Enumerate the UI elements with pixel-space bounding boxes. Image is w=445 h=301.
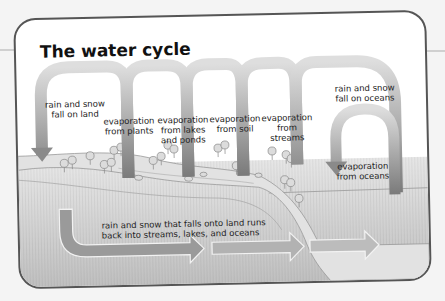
label-evaporation-streams: evaporation from streams [261, 112, 313, 143]
water-cycle-diagram [15, 12, 430, 288]
label-line: fall on land [45, 108, 105, 119]
label-evaporation-soil: evaporation from soil [209, 113, 260, 134]
label-line: from soil [209, 123, 260, 134]
label-rain-on-oceans: rain and snow fall on oceans [335, 82, 395, 103]
label-line: fall on oceans [335, 92, 395, 103]
background-rule-right [425, 50, 445, 52]
label-runoff: rain and snow that falls onto land runs … [101, 217, 266, 240]
label-rain-on-land: rain and snow fall on land [45, 98, 105, 119]
label-line: from oceans [336, 171, 389, 182]
label-line: streams [262, 132, 313, 143]
water-cycle-card: The water cycle [13, 10, 432, 290]
label-line: and ponds [158, 134, 209, 145]
label-evaporation-oceans: evaporation from oceans [336, 161, 389, 182]
label-evaporation-plants: evaporation from plants [103, 115, 154, 136]
label-line: from plants [103, 125, 154, 136]
label-evaporation-lakes: evaporation from lakes and ponds [157, 114, 209, 145]
label-line: evaporation [261, 112, 312, 123]
